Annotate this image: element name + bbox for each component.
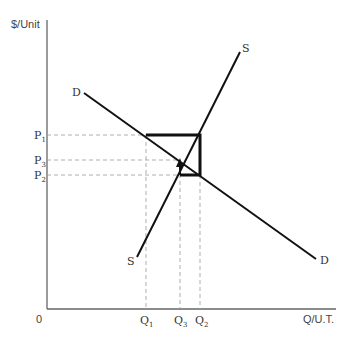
price-label-p1: P1 xyxy=(34,129,46,144)
supply-curve xyxy=(137,52,240,257)
price-label-p3: P3 xyxy=(34,154,46,169)
y-axis-label: $/Unit xyxy=(11,18,40,30)
origin-label: 0 xyxy=(36,313,42,325)
x-axis-label: Q/U.T. xyxy=(303,313,334,325)
supply-label-start: S xyxy=(127,255,135,268)
supply-demand-diagram: $/Unit Q/U.T. 0 D D S S P1 P3 P2 Q1 Q3 Q… xyxy=(0,0,354,344)
supply-label-end: S xyxy=(242,42,250,55)
quantity-label-q2: Q2 xyxy=(195,314,209,329)
quantity-label-q3: Q3 xyxy=(174,314,188,329)
demand-label-end: D xyxy=(320,254,329,267)
demand-label-start: D xyxy=(72,86,81,99)
quantity-label-q1: Q1 xyxy=(140,314,154,329)
price-label-p2: P2 xyxy=(34,169,46,184)
